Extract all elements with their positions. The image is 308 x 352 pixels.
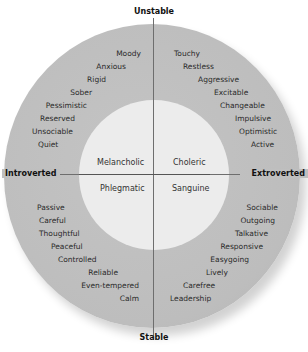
trait-leadership: Leadership [170,295,211,303]
trait-passive: Passive [37,204,65,212]
vertical-axis-line [153,18,154,336]
trait-easygoing: Easygoing [210,256,249,264]
personality-diagram: Unstable Stable Introverted Extroverted … [0,0,308,352]
trait-excitable: Excitable [214,89,248,97]
temperament-melancholic: Melancholic [97,158,144,167]
trait-careful: Careful [39,217,66,225]
inner-circle [79,100,229,250]
trait-quiet: Quiet [38,141,58,149]
trait-even-tempered: Even-tempered [81,282,139,290]
trait-anxious: Anxious [96,63,126,71]
axis-label-extroverted: Extroverted [249,169,308,178]
temperament-sanguine: Sanguine [172,184,209,193]
trait-pessimistic: Pessimistic [46,102,87,110]
temperament-phlegmatic: Phlegmatic [100,184,145,193]
axis-label-stable: Stable [0,333,308,342]
trait-reserved: Reserved [40,115,75,123]
trait-optimistic: Optimistic [239,128,277,136]
trait-calm: Calm [120,295,139,303]
horizontal-axis-line-right [210,174,240,175]
trait-thoughtful: Thoughtful [39,230,80,238]
trait-moody: Moody [116,50,141,58]
trait-aggressive: Aggressive [198,76,239,84]
axis-label-unstable: Unstable [0,7,308,16]
trait-reliable: Reliable [88,269,118,277]
trait-peaceful: Peaceful [51,243,83,251]
trait-rigid: Rigid [87,76,106,84]
trait-outgoing: Outgoing [240,217,275,225]
trait-impulsive: Impulsive [235,115,271,123]
trait-touchy: Touchy [174,50,200,58]
trait-lively: Lively [206,269,228,277]
trait-responsive: Responsive [220,243,263,251]
horizontal-axis-line-center [79,174,229,175]
trait-active: Active [251,141,274,149]
trait-controlled: Controlled [58,256,97,264]
trait-sober: Sober [70,89,92,97]
trait-changeable: Changeable [220,102,265,110]
trait-carefree: Carefree [183,282,215,290]
trait-restless: Restless [183,63,214,71]
trait-unsociable: Unsociable [32,128,73,136]
trait-sociable: Sociable [246,204,278,212]
temperament-choleric: Choleric [173,158,206,167]
trait-talkative: Talkative [235,230,268,238]
axis-label-introverted: Introverted [2,169,60,178]
